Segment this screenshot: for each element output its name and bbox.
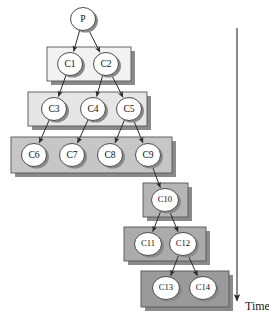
process-node-c7[interactable]: C7	[60, 144, 85, 167]
node-label: C2	[100, 58, 111, 69]
node-label: C8	[104, 149, 115, 160]
diagram-canvas: PC1C2C3C4C5C6C7C8C9C10C11C12C13C14 Time	[0, 0, 269, 318]
node-label: C9	[142, 149, 153, 160]
process-node-p[interactable]: P	[71, 8, 96, 31]
process-node-c5[interactable]: C5	[117, 98, 142, 121]
process-node-c11[interactable]: C11	[135, 233, 162, 256]
process-node-c14[interactable]: C14	[190, 277, 217, 300]
process-node-c8[interactable]: C8	[98, 144, 123, 167]
node-label: C6	[28, 149, 39, 160]
process-node-c10[interactable]: C10	[152, 189, 179, 212]
process-node-c2[interactable]: C2	[94, 53, 119, 76]
process-node-c4[interactable]: C4	[81, 98, 106, 121]
node-label: C1	[64, 58, 75, 69]
process-node-c3[interactable]: C3	[42, 98, 67, 121]
node-label: C3	[48, 103, 59, 114]
process-node-c6[interactable]: C6	[22, 144, 47, 167]
process-node-c9[interactable]: C9	[136, 144, 161, 167]
node-label: C5	[123, 103, 134, 114]
process-node-c13[interactable]: C13	[153, 277, 180, 300]
process-node-c1[interactable]: C1	[58, 53, 83, 76]
node-label: C7	[66, 149, 77, 160]
time-axis: Time	[237, 28, 269, 313]
node-label: C10	[158, 194, 172, 204]
node-label: C14	[196, 282, 211, 292]
process-tree-diagram: PC1C2C3C4C5C6C7C8C9C10C11C12C13C14 Time	[0, 0, 269, 318]
node-label: C4	[87, 103, 98, 114]
process-node-c12[interactable]: C12	[170, 233, 197, 256]
node-label: C11	[141, 238, 155, 248]
time-axis-label: Time	[245, 299, 269, 313]
node-label: C13	[159, 282, 173, 292]
node-label: C12	[176, 238, 190, 248]
node-label: P	[80, 13, 85, 24]
